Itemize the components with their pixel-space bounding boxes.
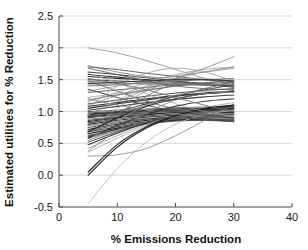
- x-tick-label: 20: [169, 211, 181, 223]
- y-axis-title: Estimated utilities for % Reduction: [3, 17, 15, 207]
- y-tick-label: -0.5: [34, 201, 53, 213]
- y-tick-label: 2.0: [38, 42, 53, 54]
- series-lines: [88, 48, 234, 204]
- x-axis-title: % Emissions Reduction: [111, 233, 241, 245]
- y-tick-label: 1.5: [38, 74, 53, 86]
- chart-container: 010203040 -0.50.00.51.01.52.02.5 % Emiss…: [0, 0, 308, 250]
- x-tick-label: 0: [56, 211, 62, 223]
- y-tick-label: 1.0: [38, 106, 53, 118]
- x-tick-label: 30: [228, 211, 240, 223]
- line-chart: 010203040 -0.50.00.51.01.52.02.5 % Emiss…: [0, 0, 308, 250]
- x-tick-label: 40: [286, 211, 298, 223]
- x-tick-label: 10: [111, 211, 123, 223]
- x-axis-ticks: 010203040: [56, 203, 298, 223]
- y-tick-label: 0.0: [38, 169, 53, 181]
- y-tick-label: 0.5: [38, 137, 53, 149]
- y-tick-label: 2.5: [38, 10, 53, 22]
